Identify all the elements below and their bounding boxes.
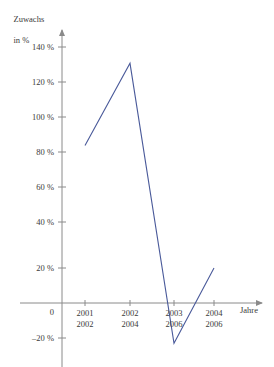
y-tick-label-20: 20 % — [16, 264, 54, 273]
y-tick-label-140: 140 % — [16, 43, 54, 52]
x-tick-label-4: 2004 2006 — [194, 308, 234, 330]
series-line-zuwachs — [85, 63, 214, 343]
x-tick-label-1-row2: 2002 — [65, 319, 105, 330]
y-tick-label-100: 100 % — [16, 113, 54, 122]
x-tick-label-2-row2: 2004 — [110, 319, 150, 330]
y-tick-label-120: 120 % — [16, 78, 54, 87]
x-tick-label-2: 2002 2004 — [110, 308, 150, 330]
growth-line-chart: Zuwachs in % Jahre 140 % 120 % 100 % 80 … — [0, 0, 274, 367]
x-tick-label-3: 2003 2006 — [154, 308, 194, 330]
x-tick-label-4-row1: 2004 — [206, 308, 223, 318]
y-tick-label-neg20: –20 % — [16, 334, 54, 343]
y-tick-label-60: 60 % — [16, 183, 54, 192]
x-axis-title: Jahre — [240, 305, 258, 316]
x-tick-label-3-row2: 2006 — [154, 319, 194, 330]
x-tick-label-3-row1: 2003 — [166, 308, 183, 318]
x-tick-label-1-row1: 2001 — [77, 308, 94, 318]
x-tick-label-2-row1: 2002 — [122, 308, 139, 318]
x-tick-label-4-row2: 2006 — [194, 319, 234, 330]
y-tick-label-40: 40 % — [16, 218, 54, 227]
y-tick-label-zero: 0 — [16, 308, 54, 317]
y-tick-label-80: 80 % — [16, 148, 54, 157]
x-tick-label-1: 2001 2002 — [65, 308, 105, 330]
y-axis-title-line1: Zuwachs — [14, 14, 45, 24]
